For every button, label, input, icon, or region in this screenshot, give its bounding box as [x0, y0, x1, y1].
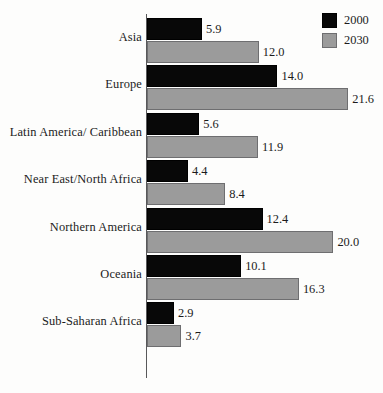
bar-value-label: 21.6 — [348, 93, 374, 106]
bar-value-label: 3.7 — [181, 330, 201, 343]
bar-2000-northern-america — [147, 208, 263, 230]
category-label: Sub-Saharan Africa — [0, 314, 142, 328]
legend-entry-2030[interactable]: 2030 — [322, 30, 369, 50]
legend-label: 2000 — [344, 14, 369, 27]
bar-value-label: 12.4 — [263, 212, 289, 225]
bar-2030-europe — [147, 88, 348, 110]
chart-legend: 20002030 — [322, 10, 369, 50]
bar-2000-asia — [147, 18, 202, 40]
legend-swatch-icon — [322, 33, 337, 48]
bar-group: Europe14.021.6 — [0, 65, 383, 111]
bar-group: Northern America12.420.0 — [0, 208, 383, 254]
bar-2000-europe — [147, 65, 277, 87]
bar-chart: Asia5.912.0Europe14.021.6Latin America/ … — [0, 0, 383, 393]
bar-value-label: 16.3 — [299, 283, 325, 296]
category-label: Northern America — [0, 220, 142, 234]
bar-value-label: 8.4 — [225, 188, 245, 201]
category-label: Oceania — [0, 267, 142, 281]
legend-label: 2030 — [344, 34, 369, 47]
bar-value-label: 2.9 — [174, 307, 194, 320]
bar-2000-near-east-north-africa — [147, 160, 188, 182]
bar-value-label: 12.0 — [259, 46, 285, 59]
bar-value-label: 5.6 — [199, 117, 219, 130]
bar-2030-asia — [147, 41, 259, 63]
bar-value-label: 14.0 — [277, 70, 303, 83]
bar-2000-sub-saharan-africa — [147, 302, 174, 324]
bar-value-label: 4.4 — [188, 165, 208, 178]
legend-entry-2000[interactable]: 2000 — [322, 10, 369, 30]
bar-group: Oceania10.116.3 — [0, 255, 383, 301]
bar-2030-northern-america — [147, 231, 333, 253]
bar-value-label: 5.9 — [202, 23, 222, 36]
bar-group: Near East/North Africa4.48.4 — [0, 160, 383, 206]
bar-value-label: 11.9 — [258, 140, 283, 153]
bar-group: Latin America/ Caribbean5.611.9 — [0, 113, 383, 159]
bar-2030-near-east-north-africa — [147, 183, 225, 205]
bar-2000-oceania — [147, 255, 241, 277]
category-label: Europe — [0, 77, 142, 91]
bar-2030-oceania — [147, 278, 299, 300]
bar-2030-sub-saharan-africa — [147, 325, 181, 347]
bar-value-label: 10.1 — [241, 260, 267, 273]
legend-swatch-icon — [322, 13, 337, 28]
bar-group: Sub-Saharan Africa2.93.7 — [0, 302, 383, 348]
category-label: Asia — [0, 30, 142, 44]
plot-area: Asia5.912.0Europe14.021.6Latin America/ … — [0, 0, 383, 393]
bar-value-label: 20.0 — [333, 235, 359, 248]
bar-2030-latin-america-caribbean — [147, 136, 258, 158]
bar-2000-latin-america-caribbean — [147, 113, 199, 135]
category-label: Latin America/ Caribbean — [0, 125, 142, 139]
category-label: Near East/North Africa — [0, 172, 142, 186]
